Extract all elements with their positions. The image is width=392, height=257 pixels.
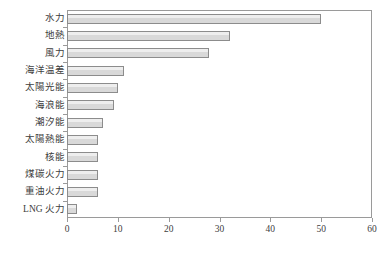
y-axis-tick: [63, 62, 67, 63]
y-axis-tick: [63, 201, 67, 202]
bar-row: 海洋温差: [0, 62, 392, 79]
category-label: 煤碳火力: [0, 169, 65, 180]
category-label: 潮汐能: [0, 117, 65, 128]
x-axis-tick-label: 0: [47, 224, 87, 235]
y-axis-tick: [63, 166, 67, 167]
x-axis-tick: [321, 218, 322, 222]
bar: [67, 152, 98, 162]
bar: [67, 48, 209, 58]
x-axis-tick-label: 10: [98, 224, 138, 235]
bar-row: 潮汐能: [0, 114, 392, 131]
x-axis-tick-label: 50: [301, 224, 341, 235]
bar-row: 水力: [0, 10, 392, 27]
bar: [67, 170, 98, 180]
bar-row: 地熱: [0, 27, 392, 44]
y-axis-tick: [63, 97, 67, 98]
category-label: 海浪能: [0, 100, 65, 111]
bar-row: 太陽光能: [0, 79, 392, 96]
category-label: 水力: [0, 13, 65, 24]
bar-row: 重油火力: [0, 183, 392, 200]
y-axis-tick: [63, 149, 67, 150]
x-axis-tick: [372, 218, 373, 222]
x-axis-tick-label: 40: [250, 224, 290, 235]
bar-row: 海浪能: [0, 97, 392, 114]
x-axis-tick: [220, 218, 221, 222]
x-axis-tick-label: 20: [149, 224, 189, 235]
category-label: 地熱: [0, 30, 65, 41]
x-axis-tick-label: 30: [200, 224, 240, 235]
y-axis-tick: [63, 131, 67, 132]
category-label: 太陽熱能: [0, 134, 65, 145]
x-axis-tick: [169, 218, 170, 222]
bar: [67, 31, 230, 41]
bar-chart: 水力地熱風力海洋温差太陽光能海浪能潮汐能太陽熱能核能煤碳火力重油火力LNG 火力…: [0, 0, 392, 257]
category-label: LNG 火力: [0, 204, 65, 215]
bar-row: LNG 火力: [0, 201, 392, 218]
bar: [67, 66, 124, 76]
bar-row: 太陽熱能: [0, 131, 392, 148]
category-label: 核能: [0, 152, 65, 163]
category-label: 太陽光能: [0, 82, 65, 93]
bar: [67, 83, 118, 93]
bar: [67, 118, 103, 128]
bar: [67, 100, 114, 110]
bar-row: 風力: [0, 45, 392, 62]
category-label: 海洋温差: [0, 65, 65, 76]
bar-row: 煤碳火力: [0, 166, 392, 183]
x-axis-tick-label: 60: [352, 224, 392, 235]
y-axis-tick: [63, 114, 67, 115]
y-axis-tick: [63, 79, 67, 80]
bar: [67, 204, 77, 214]
x-axis-tick: [118, 218, 119, 222]
bar: [67, 14, 321, 24]
bar-row: 核能: [0, 149, 392, 166]
category-label: 重油火力: [0, 186, 65, 197]
y-axis-tick: [63, 45, 67, 46]
category-rows: 水力地熱風力海洋温差太陽光能海浪能潮汐能太陽熱能核能煤碳火力重油火力LNG 火力: [0, 10, 392, 218]
y-axis-tick: [63, 27, 67, 28]
category-label: 風力: [0, 48, 65, 59]
bar: [67, 135, 98, 145]
x-axis-tick: [67, 218, 68, 222]
x-axis-tick: [270, 218, 271, 222]
bar: [67, 187, 98, 197]
y-axis-tick: [63, 183, 67, 184]
